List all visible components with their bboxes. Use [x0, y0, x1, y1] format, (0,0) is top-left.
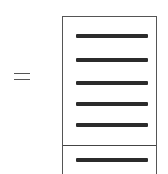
- equals-line-top: [14, 73, 30, 74]
- menu-item-2[interactable]: [76, 58, 148, 62]
- menu-item-3[interactable]: [76, 81, 148, 85]
- divider: [63, 145, 156, 146]
- menu-footer-item[interactable]: [76, 158, 148, 162]
- menu-item-1[interactable]: [76, 34, 148, 38]
- equals-icon[interactable]: [14, 73, 30, 81]
- equals-line-bottom: [14, 79, 30, 80]
- menu-item-5[interactable]: [76, 123, 148, 127]
- menu-panel: [62, 16, 157, 174]
- menu-item-4[interactable]: [76, 102, 148, 106]
